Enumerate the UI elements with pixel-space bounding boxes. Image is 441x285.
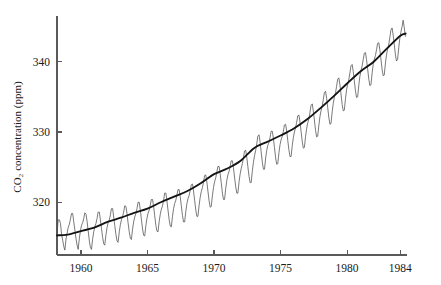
x-tick-label: 1980: [336, 262, 359, 274]
x-tick-mark-group: [81, 250, 400, 255]
co2-concentration-chart: CO₂ concentration (ppm) 320330340 196019…: [0, 0, 441, 285]
y-axis-label-group: CO₂ concentration (ppm): [11, 81, 24, 193]
x-tick-label-group: 196019651970197519801984: [69, 262, 412, 274]
y-tick-label: 320: [33, 196, 51, 208]
x-tick-label: 1984: [389, 262, 412, 274]
y-tick-mark-group: [57, 62, 62, 203]
x-tick-label: 1960: [69, 262, 92, 274]
y-tick-label-group: 320330340: [33, 56, 51, 209]
x-tick-label: 1975: [269, 262, 292, 274]
series-line-trend: [57, 34, 406, 236]
x-tick-label: 1965: [136, 262, 159, 274]
x-tick-label: 1970: [203, 262, 226, 274]
y-axis-label: CO₂ concentration (ppm): [11, 81, 24, 193]
y-tick-label: 340: [33, 56, 51, 68]
series-line-seasonal-cycle: [57, 20, 405, 250]
y-tick-label: 330: [33, 126, 51, 138]
chart-canvas: CO₂ concentration (ppm) 320330340 196019…: [0, 0, 441, 285]
